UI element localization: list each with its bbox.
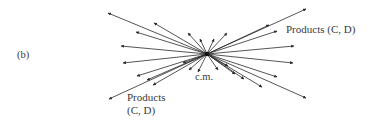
trajectory-arrow	[207, 54, 306, 98]
trajectory-arrow	[154, 23, 207, 54]
particle-burst-diagram	[0, 0, 368, 123]
trajectory-arrow	[108, 13, 207, 54]
center-of-mass-label: c.m.	[195, 71, 213, 83]
trajectory-arrow	[207, 25, 269, 54]
panel-label: (b)	[17, 49, 29, 61]
products-label-left: Products	[127, 91, 166, 103]
trajectory-arrow	[189, 54, 207, 70]
products-label-right: Products (C, D)	[286, 23, 355, 35]
products-label-left-species: (C, D)	[127, 104, 155, 116]
center-of-mass-point	[205, 52, 209, 56]
